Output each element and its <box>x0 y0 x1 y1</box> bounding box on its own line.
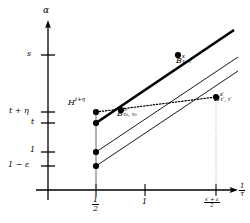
x-tick-half-denominator: 2 <box>92 205 99 213</box>
x-tick-sprime-denominator: 2 <box>204 203 220 208</box>
label-B-t0-scripts: τ₀,τ₀ t₀ τ₀, τ₀ <box>123 110 135 118</box>
label-H-main: H <box>68 98 75 107</box>
upper-thin-solid-line <box>96 57 238 152</box>
label-B-s-subscript: τ, τ <box>182 59 191 64</box>
y-axis-group <box>45 20 51 200</box>
y-tick-label-s: s <box>27 50 31 58</box>
label-H-t-plus-eta: Ht+η <box>68 99 85 107</box>
label-B-t0-tau0: B τ₀,τ₀ t₀ τ₀, τ₀ <box>117 110 135 118</box>
label-H-superscript: t+η <box>75 96 85 102</box>
y-tick-label-t-plus-eta: t + η <box>9 107 29 115</box>
point-B-one <box>93 149 99 155</box>
label-B-s-tau-tau: B τ,τ s τ, τ <box>176 57 190 65</box>
figure-canvas: α 1 τ s t + η t 1 1 − ε 1 2 1 s′ + ε 2 H… <box>0 0 250 223</box>
y-tick-label-one: 1 <box>30 146 35 154</box>
label-B-s-scripts: τ,τ s τ, τ <box>182 57 190 65</box>
label-B-t0-subscript: τ₀, τ₀ <box>123 112 137 117</box>
label-B-sprime: B τ′,τ′ s′ τ′, τ′ <box>214 95 230 103</box>
x-axis-label-denominator: τ <box>239 191 245 198</box>
y-tick-label-one-minus-eps: 1 − ε <box>8 161 29 169</box>
label-B-sp-scripts: τ′,τ′ s′ τ′, τ′ <box>220 95 230 103</box>
x-axis-label: 1 τ <box>239 183 245 198</box>
x-tick-label-one: 1 <box>142 198 147 206</box>
x-axis-group <box>36 187 238 193</box>
label-B-sp-subscript: τ′, τ′ <box>220 97 232 102</box>
x-tick-label-sprime-plus-eps-over-two: s′ + ε 2 <box>204 197 220 208</box>
x-tick-label-half: 1 2 <box>92 196 99 213</box>
point-B-t <box>93 120 99 126</box>
y-tick-label-t: t <box>31 118 34 126</box>
lower-thin-solid-line <box>96 71 238 166</box>
y-axis-label: α <box>43 6 49 15</box>
point-H-t-plus-eta <box>93 109 99 115</box>
point-B-one-minus-eps <box>93 163 99 169</box>
